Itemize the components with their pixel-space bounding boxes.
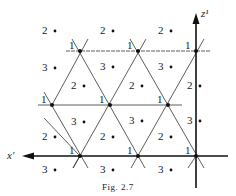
lattice-point-label: 1 [185, 40, 191, 51]
lattice-point [136, 154, 140, 158]
region-dot [54, 30, 57, 33]
region-dot [54, 169, 57, 172]
region-dot [170, 169, 173, 172]
region-dot [170, 30, 173, 33]
region-dot [170, 136, 173, 139]
region-dot [112, 66, 115, 69]
x-axis-label: x' [7, 150, 14, 161]
lattice-point-label: 1 [69, 145, 75, 156]
region-label: 3 [158, 164, 164, 175]
z-axis-label: z¹ [201, 8, 209, 19]
z-axis-arrow-icon [193, 13, 200, 24]
region-dot [141, 85, 144, 88]
region-label: 2 [42, 25, 48, 36]
region-label: 2 [158, 131, 164, 142]
region-label: 2 [42, 131, 48, 142]
figure-caption: Fig. 2.7 [0, 182, 236, 192]
lattice-point-label: 1 [69, 40, 75, 51]
lattice-point-label: 1 [99, 94, 105, 105]
x-axis-arrow-icon [22, 153, 34, 160]
lattice-point [78, 49, 82, 53]
region-label: 3 [42, 62, 48, 73]
lattice-point-label: 1 [157, 94, 163, 105]
lattice-point [108, 103, 112, 107]
region-label: 3 [187, 115, 193, 126]
lattice-point [166, 103, 170, 107]
region-label: 2 [129, 80, 135, 91]
region-dot [112, 169, 115, 172]
region-label: 2 [100, 131, 106, 142]
region-label: 3 [71, 116, 77, 127]
lattice-point [78, 154, 82, 158]
region-label: 3 [129, 115, 135, 126]
lattice-diagram [0, 0, 236, 196]
region-label: 3 [100, 61, 106, 72]
region-label: 2 [100, 25, 106, 36]
lattice-point-label: 1 [127, 145, 133, 156]
lattice-point-label: 1 [41, 94, 47, 105]
region-label: 2 [187, 80, 193, 91]
region-label: 2 [158, 25, 164, 36]
region-dot [170, 66, 173, 69]
lattice-point-label: 1 [185, 145, 191, 156]
lattice-point [194, 49, 198, 53]
region-dot [112, 30, 115, 33]
region-dot [199, 120, 202, 123]
lattice-point [136, 49, 140, 53]
region-dot [141, 120, 144, 123]
region-label: 2 [71, 80, 77, 91]
region-dot [83, 85, 86, 88]
region-dot [199, 85, 202, 88]
region-dot [54, 67, 57, 70]
region-label: 3 [42, 164, 48, 175]
region-label: 3 [100, 164, 106, 175]
lattice-point [194, 154, 198, 158]
region-dot [112, 136, 115, 139]
region-dot [83, 121, 86, 124]
lattice-point-label: 1 [127, 40, 133, 51]
region-label: 3 [158, 61, 164, 72]
region-dot [54, 136, 57, 139]
lattice-point [50, 103, 54, 107]
